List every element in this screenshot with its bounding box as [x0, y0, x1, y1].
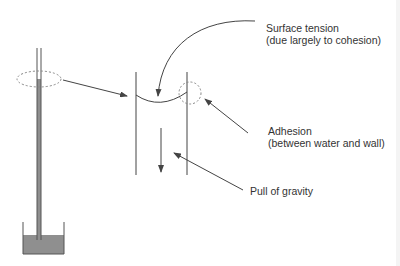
adhesion-label: Adhesion (between water and wall): [268, 125, 385, 149]
zoom-arrow: [63, 80, 127, 96]
surface-tension-label: Surface tension (due largely to cohesion…: [266, 22, 381, 46]
adhesion-circle: [179, 82, 201, 104]
adhesion-line2: (between water and wall): [268, 137, 385, 149]
gravity-line1: Pull of gravity: [250, 185, 313, 197]
adhesion-line1: Adhesion: [268, 125, 385, 137]
capillary-tube: [37, 48, 41, 240]
surface-tension-line2: (due largely to cohesion): [266, 34, 381, 46]
gravity-pointer: [174, 153, 243, 190]
surface-tension-line1: Surface tension: [266, 22, 381, 34]
adhesion-arrow: [205, 99, 248, 133]
surface-tension-arrow: [158, 21, 255, 96]
beaker: [23, 222, 64, 254]
gravity-label: Pull of gravity: [250, 185, 313, 197]
